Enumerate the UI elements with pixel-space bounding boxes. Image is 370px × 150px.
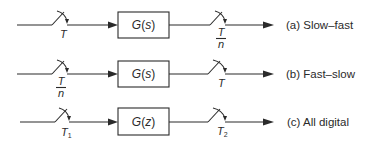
svg-text:n: n [58, 87, 64, 99]
arrow-icon [108, 119, 118, 126]
output-sampler-switch-icon [210, 11, 264, 25]
arrow-icon [263, 119, 274, 126]
row-a: T G(s) T n (a) Slow–fast [17, 11, 354, 50]
multirate-diagram: T G(s) T n (a) Slow–fast T n [0, 0, 370, 150]
input-sampler-switch-icon [52, 60, 110, 74]
svg-text:T: T [58, 75, 66, 87]
arrow-icon [263, 22, 274, 29]
input-sampler-switch-icon [55, 108, 110, 122]
output-sampler-switch-icon [208, 108, 264, 122]
block-label: G(s) [132, 67, 155, 81]
row-c: T1 G(z) T2 (c) All digital [20, 108, 349, 139]
input-sampler-switch-icon [52, 11, 110, 25]
caption-b: (b) Fast–slow [286, 68, 356, 80]
svg-text:n: n [218, 38, 224, 50]
block-label: G(s) [132, 18, 155, 32]
output-sampler-switch-icon [208, 60, 264, 74]
output-sampler-label: T [218, 77, 226, 89]
arrow-icon [108, 71, 118, 78]
input-sampler-label: T1 [61, 126, 72, 139]
arrow-icon [108, 22, 118, 29]
input-sampler-label: T n [56, 75, 66, 99]
caption-a: (a) Slow–fast [286, 19, 354, 31]
output-sampler-label: T2 [217, 125, 228, 138]
caption-c: (c) All digital [287, 116, 349, 128]
row-b: T n G(s) T (b) Fast–slow [17, 60, 356, 99]
input-sampler-label: T [60, 28, 68, 40]
arrow-icon [263, 71, 274, 78]
svg-text:T: T [218, 26, 226, 38]
block-label: G(z) [132, 115, 155, 129]
output-sampler-label: T n [216, 26, 226, 50]
